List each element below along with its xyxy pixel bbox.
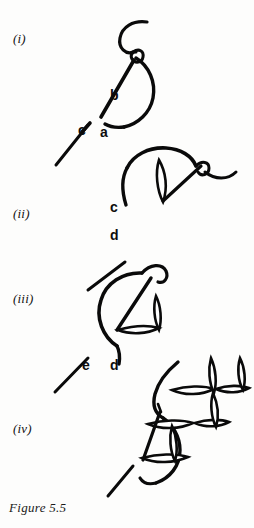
needle-shaft-iii — [117, 278, 151, 330]
thread-arc-ii — [127, 148, 196, 168]
thread-knot-i — [131, 50, 143, 62]
stitch-h-top-right-iv — [216, 386, 249, 392]
stitch-v-top-right-iv — [238, 358, 244, 390]
needle-shaft-iv — [143, 412, 160, 460]
stitch-ellipse-horizontal-iii — [118, 326, 159, 333]
thread-hook-iii — [142, 266, 167, 283]
stitch-diagram-artwork — [0, 0, 254, 528]
panel-label-i: (i) — [13, 31, 26, 47]
thread-exit-ii — [205, 172, 236, 178]
thread-knot-ii — [196, 162, 209, 174]
stitch-v-mid-iv — [211, 393, 217, 427]
needle-loose-iv — [108, 466, 133, 496]
panel-label-iii: (iii) — [13, 291, 34, 307]
point-label-b: b — [110, 87, 119, 103]
figure-caption: Figure 5.5 — [9, 500, 66, 516]
stitch-ellipse-vertical-iii — [154, 296, 160, 330]
point-label-c-panel-ii: c — [110, 199, 118, 215]
thread-tail-ii — [123, 168, 127, 205]
panel-label-ii: (ii) — [13, 206, 30, 222]
panel-label-iv: (iv) — [13, 421, 32, 437]
figure-container: (i) (ii) (iii) (iv) b a c c d e d Figure… — [0, 0, 254, 528]
point-label-d-panel-iii: d — [110, 357, 119, 373]
stitch-h-mid-left-iv — [148, 420, 193, 428]
needle-eye-iv — [158, 404, 161, 412]
stitch-h-mid-right-iv — [195, 420, 229, 426]
panel-ii-artwork — [123, 148, 236, 205]
point-label-c-panel-i: c — [78, 122, 86, 138]
thread-lower-iv — [156, 418, 180, 483]
thread-upper-iv — [154, 362, 178, 418]
thread-loop-right-i — [124, 58, 154, 127]
needle-loose-iii — [88, 262, 125, 290]
needle-shaft-ii — [163, 166, 201, 201]
panel-iv-artwork — [108, 358, 249, 496]
panel-i-artwork — [56, 22, 154, 165]
point-label-d-panel-ii: d — [110, 227, 119, 243]
stitch-h-top-left-iv — [172, 386, 214, 394]
stitch-ellipse-ii — [157, 160, 166, 202]
point-label-e-panel-iii: e — [82, 357, 90, 373]
thread-tail-i — [120, 22, 147, 53]
point-label-a: a — [100, 124, 108, 140]
stitch-v-bottom-iv — [170, 426, 176, 461]
stitch-h-bottom-iv — [142, 454, 188, 462]
thread-loop-iii — [99, 273, 142, 346]
thread-tail-iv — [140, 478, 156, 484]
stitch-v-top-iv — [209, 358, 215, 393]
